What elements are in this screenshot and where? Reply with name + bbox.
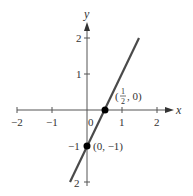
x-tick-label: −2 xyxy=(11,116,23,128)
x-axis-arrow-icon xyxy=(165,107,174,113)
origin-label: 0 xyxy=(88,116,94,128)
x-tick-label: 1 xyxy=(119,116,125,128)
y-axis-label: y xyxy=(83,7,90,21)
svg-text:2: 2 xyxy=(121,97,125,106)
svg-text:, 0): , 0) xyxy=(127,90,142,103)
y-tick-label: 2 xyxy=(76,32,82,44)
svg-text:1: 1 xyxy=(121,87,125,96)
svg-text:(: ( xyxy=(115,90,119,103)
chart: x y −2 −1 0 1 2 2 1 −1 2 ( 1 2 , 0) (0, … xyxy=(0,0,193,196)
y-tick-label: 2 xyxy=(74,177,80,189)
x-intercept-point xyxy=(102,107,109,114)
x-axis-label: x xyxy=(175,103,182,117)
x-intercept-label: ( 1 2 , 0) xyxy=(115,87,142,106)
y-axis-arrow-icon xyxy=(84,22,90,31)
x-tick-label: 2 xyxy=(154,116,160,128)
y-intercept-label: (0, −1) xyxy=(93,140,123,153)
y-tick-label: −1 xyxy=(68,140,80,152)
y-intercept-point xyxy=(84,143,91,150)
x-tick-label: −1 xyxy=(46,116,58,128)
y-tick-label: 1 xyxy=(76,68,82,80)
